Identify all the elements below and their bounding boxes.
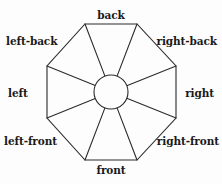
label-left-front: left-front bbox=[4, 136, 57, 147]
label-front: front bbox=[0, 165, 222, 176]
sector-divider-2 bbox=[127, 66, 176, 86]
label-right-back: right-back bbox=[156, 36, 217, 47]
label-left: left bbox=[8, 88, 28, 99]
sector-divider-0 bbox=[85, 24, 105, 76]
sector-divider-6 bbox=[47, 98, 95, 118]
center-circle bbox=[94, 75, 128, 109]
sector-divider-4 bbox=[117, 108, 137, 160]
label-right-front: right-front bbox=[157, 136, 219, 147]
label-left-back: left-back bbox=[6, 36, 57, 47]
sector-divider-5 bbox=[85, 108, 105, 160]
sector-divider-7 bbox=[47, 66, 95, 86]
sector-divider-3 bbox=[127, 98, 176, 118]
sector-divider-1 bbox=[117, 24, 137, 76]
direction-wheel-figure: back right-back right right-front front … bbox=[0, 0, 222, 184]
label-right: right bbox=[185, 88, 214, 99]
label-back: back bbox=[0, 10, 222, 21]
